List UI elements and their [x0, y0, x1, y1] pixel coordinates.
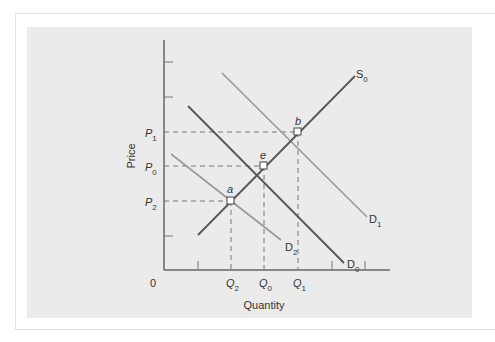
x-label-q2: Q2 [226, 277, 240, 293]
demand-curve-d0 [188, 106, 344, 263]
x-axis-title: Quantity [244, 299, 285, 311]
curve-label-d1: D1 [369, 213, 382, 229]
y-label-p1: P1 [145, 127, 157, 143]
y-axis-title: Price [125, 143, 137, 168]
origin-label: 0 [150, 277, 156, 289]
curve-label-d2: D2 [285, 241, 298, 257]
curve-label-d0: D0 [347, 258, 360, 274]
demand-curve-d1 [222, 73, 367, 217]
point-label-e: e [260, 149, 266, 161]
point-label-b: b [295, 115, 301, 127]
point-label-a: a [227, 183, 233, 195]
y-ticks [164, 62, 173, 236]
equilibrium-point-a [227, 197, 234, 204]
x-label-q0: Q0 [259, 277, 273, 293]
equilibrium-point-b [294, 128, 301, 135]
supply-curve-s0 [198, 76, 355, 235]
x-ticks [198, 261, 365, 270]
y-label-p2: P2 [145, 196, 157, 212]
curve-label-s0: S0 [356, 68, 368, 84]
equilibrium-point-e [260, 162, 267, 169]
x-label-q1: Q1 [293, 277, 307, 293]
y-label-p0: P0 [145, 161, 157, 177]
supply-demand-chart: a e b P1 P0 P2 Q2 Q0 Q1 0 S0 D1 D0 D2 Qu… [0, 0, 495, 342]
